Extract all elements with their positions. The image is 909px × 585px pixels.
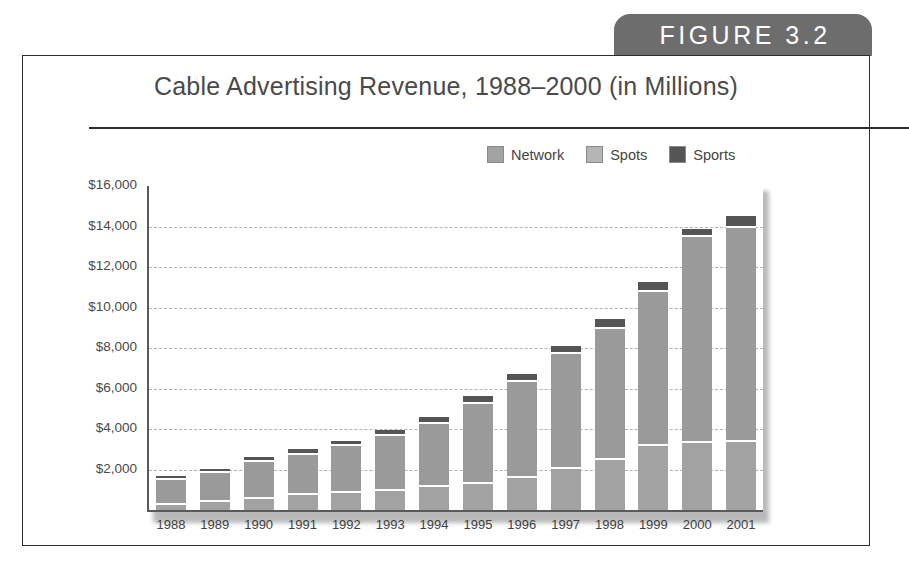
bar-segment-spots	[375, 434, 405, 489]
y-axis-tick-label: $8,000	[67, 339, 137, 354]
x-axis-tick-label: 1990	[236, 517, 282, 532]
bar-1988	[156, 476, 186, 510]
bar-1999	[638, 282, 668, 510]
bar-1990	[244, 457, 274, 510]
bar-segment-sports	[595, 319, 625, 327]
x-axis-tick-label: 1995	[455, 517, 501, 532]
bar-segment-network	[331, 491, 361, 510]
bar-segment-sports	[638, 282, 668, 290]
title-divider	[89, 127, 909, 129]
bar-segment-sports	[726, 216, 756, 225]
bar-segment-network	[551, 467, 581, 510]
y-axis-tick-label: $14,000	[67, 218, 137, 233]
y-axis-tick-label: $10,000	[67, 299, 137, 314]
bar-segment-network	[507, 476, 537, 510]
x-axis-tick-label: 1993	[367, 517, 413, 532]
bar-segment-network	[638, 444, 668, 510]
legend-item-sports: Sports	[669, 146, 735, 163]
x-axis-tick-label: 1998	[587, 517, 633, 532]
bar-segment-spots	[507, 380, 537, 475]
bar-segment-spots	[331, 444, 361, 491]
y-axis-tick-label: $4,000	[67, 420, 137, 435]
bar-2000	[682, 229, 712, 510]
gridline	[149, 348, 763, 350]
bar-segment-network	[463, 482, 493, 510]
bar-segment-spots	[551, 352, 581, 467]
gridline	[149, 267, 763, 269]
bar-segment-network	[288, 493, 318, 510]
legend-item-spots: Spots	[586, 146, 647, 163]
legend-label-network: Network	[511, 147, 564, 163]
bar-1995	[463, 396, 493, 510]
bar-1994	[419, 417, 449, 510]
bar-segment-network	[375, 489, 405, 510]
x-axis-tick-label: 1996	[499, 517, 545, 532]
gridline	[149, 308, 763, 310]
figure-number-label: FIGURE 3.2	[655, 21, 830, 50]
x-axis-tick-label: 1994	[411, 517, 457, 532]
bar-1993	[375, 430, 405, 510]
bar-segment-spots	[288, 453, 318, 494]
bar-segment-spots	[595, 327, 625, 459]
x-axis-tick-label: 2000	[674, 517, 720, 532]
gridline	[149, 429, 763, 431]
bar-segment-spots	[726, 226, 756, 441]
bar-1997	[551, 346, 581, 510]
chart-plot-area: $16,000$14,000$12,000$10,000$8,000$6,000…	[73, 183, 773, 528]
bar-segment-network	[595, 458, 625, 510]
legend-swatch-spots	[586, 146, 603, 163]
bar-segment-network	[419, 485, 449, 510]
x-axis-tick-label: 1989	[192, 517, 238, 532]
legend-swatch-network	[487, 146, 504, 163]
x-axis-line	[147, 510, 763, 512]
bar-1992	[331, 441, 361, 510]
y-axis-tick-label: $12,000	[67, 258, 137, 273]
legend-swatch-sports	[669, 146, 686, 163]
bar-segment-spots	[682, 235, 712, 442]
bar-segment-spots	[463, 402, 493, 482]
bar-segment-network	[682, 441, 712, 510]
bar-1996	[507, 374, 537, 510]
chart-title: Cable Advertising Revenue, 1988–2000 (in…	[22, 72, 870, 101]
chart-legend: Network Spots Sports	[487, 146, 735, 163]
bar-segment-network	[200, 500, 230, 510]
bar-segment-spots	[156, 478, 186, 502]
legend-label-spots: Spots	[610, 147, 647, 163]
y-axis-line	[147, 186, 149, 512]
bar-segment-spots	[244, 460, 274, 498]
bar-segment-network	[156, 503, 186, 510]
x-axis-tick-label: 1988	[148, 517, 194, 532]
x-axis-tick-label: 1991	[280, 517, 326, 532]
bar-segment-network	[726, 440, 756, 510]
y-axis-tick-label: $16,000	[67, 177, 137, 192]
bar-segment-spots	[200, 471, 230, 500]
x-axis-tick-label: 2001	[718, 517, 764, 532]
y-axis-tick-label: $6,000	[67, 380, 137, 395]
x-axis-tick-label: 1992	[323, 517, 369, 532]
gridline	[149, 470, 763, 472]
bar-segment-spots	[638, 290, 668, 444]
bar-segment-spots	[419, 422, 449, 485]
bar-segment-network	[244, 497, 274, 510]
gridline	[149, 227, 763, 229]
bar-1998	[595, 319, 625, 510]
legend-label-sports: Sports	[693, 147, 735, 163]
bar-1991	[288, 449, 318, 510]
x-axis-tick-label: 1999	[630, 517, 676, 532]
gridline	[149, 389, 763, 391]
x-axis-tick-label: 1997	[543, 517, 589, 532]
legend-item-network: Network	[487, 146, 564, 163]
bar-2001	[726, 216, 756, 510]
bar-1989	[200, 469, 230, 510]
figure-number-tab: FIGURE 3.2	[614, 14, 872, 56]
y-axis-tick-label: $2,000	[67, 461, 137, 476]
